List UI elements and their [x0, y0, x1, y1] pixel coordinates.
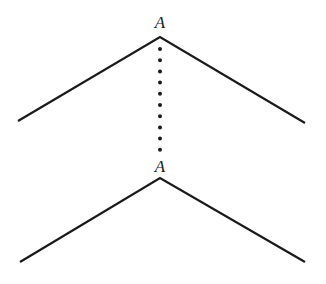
top-vertex-label: A [154, 13, 166, 32]
bottom-chevron [20, 178, 305, 262]
diagram-canvas: A A [0, 0, 326, 284]
bottom-vertex-label: A [154, 157, 166, 176]
